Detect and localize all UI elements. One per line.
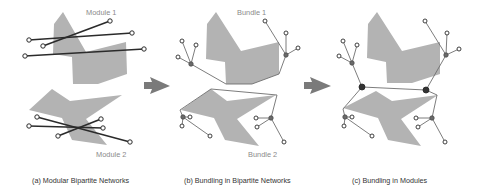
edge xyxy=(432,95,437,118)
edge xyxy=(182,41,191,64)
node xyxy=(208,134,212,138)
caption-panel-c: (c) Bundling in Modules xyxy=(352,176,427,185)
bundle-1-label: Bundle 1 xyxy=(237,8,266,17)
node xyxy=(142,47,146,51)
node xyxy=(180,39,184,43)
node xyxy=(296,46,300,50)
node xyxy=(176,55,180,59)
caption-panel-a: (a) Modular Bipartite Networks xyxy=(32,176,129,185)
edge xyxy=(343,41,352,63)
edge xyxy=(29,33,132,40)
node xyxy=(23,54,27,58)
hub-node xyxy=(269,116,273,120)
panel-c xyxy=(337,12,461,146)
bundle-2-label: Bundle 2 xyxy=(248,150,277,159)
caption-panel-b: (b) Bundling in Bipartite Networks xyxy=(184,176,291,185)
hub-node xyxy=(350,61,354,65)
node xyxy=(445,31,449,35)
node xyxy=(188,115,192,119)
node xyxy=(350,115,354,119)
bundle-1-shape xyxy=(206,12,279,84)
node xyxy=(108,19,112,23)
node xyxy=(263,19,267,23)
bundle-2-shape xyxy=(181,89,276,146)
edge xyxy=(345,117,372,136)
main-hub-node xyxy=(423,87,429,93)
hub-node xyxy=(181,115,185,119)
node xyxy=(180,124,184,128)
edge xyxy=(183,117,210,136)
node xyxy=(254,116,258,120)
node xyxy=(27,124,31,128)
panel-a: Module 1 Module 2 xyxy=(23,8,146,159)
edge xyxy=(191,45,196,64)
node xyxy=(443,140,447,144)
node xyxy=(41,44,45,48)
edge xyxy=(352,45,357,63)
bundle-edge xyxy=(362,87,426,90)
module-2-label: Module 2 xyxy=(96,150,126,159)
arrow-b-to-c-icon xyxy=(304,77,331,94)
node xyxy=(342,124,346,128)
module-2-shape-c xyxy=(343,91,438,146)
hub-node xyxy=(343,115,347,119)
node xyxy=(35,115,39,119)
module-1-shape xyxy=(53,12,127,84)
node xyxy=(284,31,288,35)
module-1-shape-c xyxy=(367,12,440,83)
node xyxy=(355,43,359,47)
panel-b: Bundle 1 Bundle 2 xyxy=(176,8,300,159)
node xyxy=(130,31,134,35)
edge xyxy=(446,33,447,55)
hub-node xyxy=(430,116,434,120)
edge xyxy=(432,118,445,142)
node xyxy=(99,117,103,121)
node xyxy=(414,116,418,120)
node xyxy=(27,38,31,42)
edge xyxy=(29,126,103,128)
node xyxy=(101,126,105,130)
figure-canvas: Module 1 Module 2 xyxy=(0,0,481,189)
hub-node xyxy=(189,62,193,66)
edge xyxy=(352,63,362,87)
node xyxy=(282,140,286,144)
node xyxy=(255,125,259,129)
node xyxy=(423,19,427,23)
node xyxy=(128,140,132,144)
arrow-a-to-b-icon xyxy=(144,77,170,94)
hub-node xyxy=(444,53,448,57)
node xyxy=(341,39,345,43)
edge xyxy=(271,118,284,142)
node xyxy=(194,43,198,47)
hub-node xyxy=(284,53,288,57)
main-hub-node xyxy=(359,84,365,90)
module-1-label: Module 1 xyxy=(86,8,116,17)
node xyxy=(457,47,461,51)
node xyxy=(56,134,60,138)
node xyxy=(337,54,341,58)
node xyxy=(416,125,420,129)
node xyxy=(370,134,374,138)
